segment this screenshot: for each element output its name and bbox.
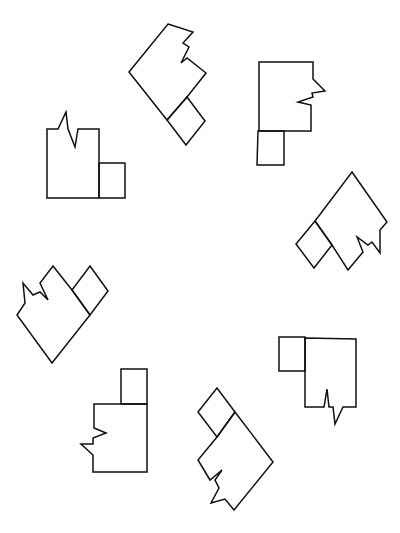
- shape-6-main: [305, 338, 356, 424]
- shape-1-main: [129, 24, 206, 120]
- shape-5: [17, 266, 108, 363]
- shape-7-main: [81, 404, 147, 472]
- mental-rotation-figure: [0, 0, 400, 533]
- shape-2-main: [259, 62, 325, 131]
- shape-8-small-square: [198, 388, 235, 437]
- shape-2-small-square: [257, 131, 284, 165]
- shape-4: [296, 172, 387, 270]
- shape-5-small-square: [72, 266, 108, 315]
- shape-4-small-square: [296, 221, 332, 268]
- shape-4-main: [315, 172, 387, 270]
- shape-6: [279, 337, 356, 424]
- shape-2: [257, 62, 325, 165]
- shape-6-small-square: [279, 337, 305, 371]
- shape-3-small-square: [99, 163, 125, 198]
- shape-7-small-square: [121, 369, 147, 404]
- shape-8: [198, 388, 273, 510]
- shape-1-small-square: [167, 97, 205, 145]
- shape-7: [81, 369, 147, 472]
- shape-1: [129, 24, 206, 145]
- shape-3-main: [47, 112, 99, 198]
- shape-3: [47, 112, 125, 198]
